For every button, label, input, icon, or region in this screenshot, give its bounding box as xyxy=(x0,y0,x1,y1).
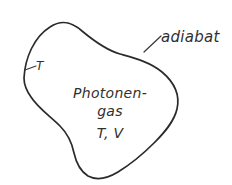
figure-canvas: adiabat T Photonen- gas T, V xyxy=(0,0,232,185)
interior-caption-line-substance: Photonen- xyxy=(36,86,184,101)
interior-caption-line-variables: T, V xyxy=(36,122,184,144)
temperature-label: T xyxy=(36,60,44,72)
interior-caption-line-phase: gas xyxy=(36,101,184,122)
adiabat-leader-line xyxy=(144,36,161,52)
interior-caption: Photonen- gas T, V xyxy=(36,86,184,144)
temperature-leader-line xyxy=(25,66,36,70)
adiabat-label: adiabat xyxy=(161,30,220,45)
